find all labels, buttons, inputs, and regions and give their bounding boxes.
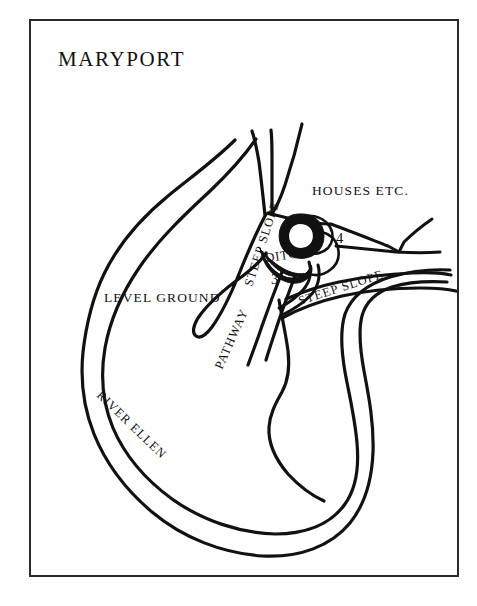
- steep-slope-left-ridge: [252, 131, 265, 215]
- marker-3: 3: [271, 271, 279, 287]
- marker-1: 1: [292, 228, 300, 244]
- marker-2: 2: [310, 215, 318, 231]
- map-drawing: MARYPORT HOUSES ETC. LEVEL GROUND STEEP …: [0, 0, 477, 606]
- headland-north-edge: [273, 124, 302, 212]
- pathway-edge-east: [266, 276, 295, 360]
- label-houses: HOUSES ETC.: [312, 183, 409, 198]
- label-level-ground: LEVEL GROUND: [104, 290, 221, 305]
- page-title: MARYPORT: [58, 47, 185, 71]
- river-inner-bank: [103, 139, 450, 534]
- map-figure: MARYPORT HOUSES ETC. LEVEL GROUND STEEP …: [0, 0, 477, 606]
- label-ditch: DITCH: [264, 245, 308, 265]
- marker-4: 4: [336, 230, 344, 246]
- label-river-ellen: RIVER ELLEN: [94, 388, 169, 461]
